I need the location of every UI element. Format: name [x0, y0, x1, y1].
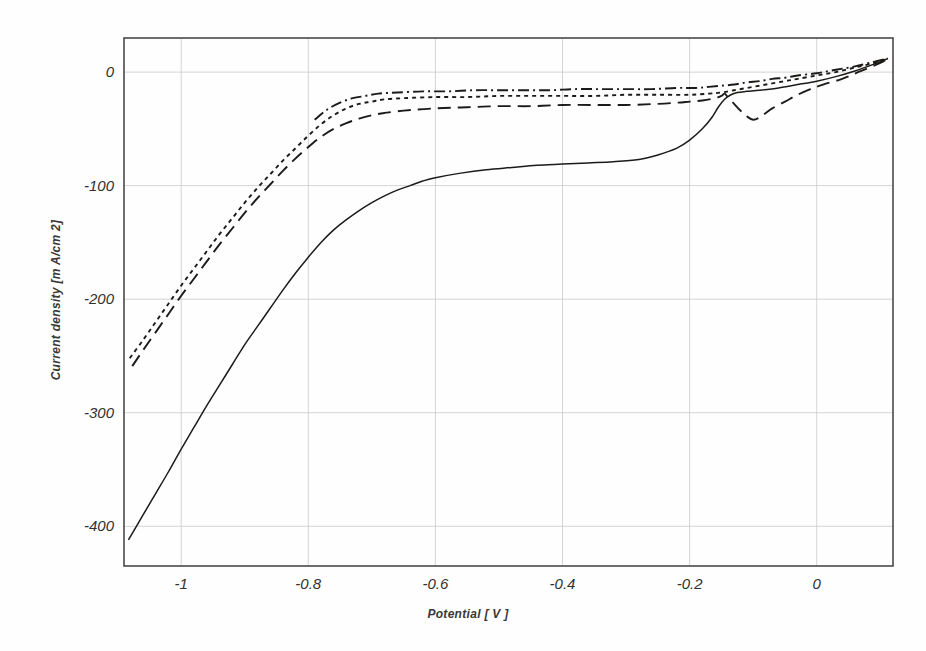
polarization-plot: -1-0.8-0.6-0.4-0.20 0-100-200-300-400 Po… — [0, 0, 926, 651]
y-tick-label: -400 — [84, 517, 115, 534]
y-tick-label: 0 — [106, 63, 115, 80]
x-tick-label: -0.4 — [550, 575, 576, 592]
x-tick-label: 0 — [813, 575, 822, 592]
plot-frame — [124, 38, 893, 566]
x-tick-label: -0.2 — [677, 575, 704, 592]
curve-longdash — [132, 58, 888, 366]
x-axis-title: Potential [ V ] — [427, 607, 509, 621]
x-tick-label: -1 — [175, 575, 188, 592]
x-tick-labels: -1-0.8-0.6-0.4-0.20 — [175, 575, 822, 592]
y-tick-label: -100 — [84, 177, 115, 194]
curve-dotted — [130, 58, 888, 358]
y-tick-labels: 0-100-200-300-400 — [84, 63, 115, 534]
grid-lines — [124, 38, 893, 566]
x-tick-label: -0.6 — [422, 575, 449, 592]
y-axis-title: Current density [m A/cm 2] — [49, 219, 63, 380]
chart-figure: -1-0.8-0.6-0.4-0.20 0-100-200-300-400 Po… — [0, 0, 926, 651]
y-tick-label: -200 — [84, 290, 115, 307]
x-tick-label: -0.8 — [295, 575, 322, 592]
y-tick-label: -300 — [84, 404, 115, 421]
